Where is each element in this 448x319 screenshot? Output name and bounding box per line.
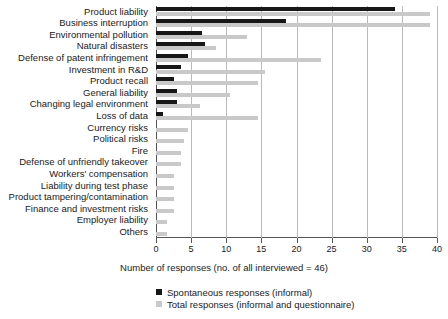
bar-total	[156, 23, 430, 27]
bar-spontaneous	[156, 77, 174, 81]
bar-total	[156, 93, 230, 97]
bar-spontaneous	[156, 65, 181, 69]
category-label: Product tampering/contamination	[9, 192, 148, 202]
bar-spontaneous	[156, 42, 205, 46]
gridline	[191, 6, 192, 238]
x-tick-label: 25	[327, 244, 337, 254]
bar-spontaneous	[156, 54, 188, 58]
legend-swatch	[156, 289, 162, 295]
category-label: Product recall	[90, 76, 148, 86]
legend-label: Spontaneous responses (informal)	[167, 287, 312, 298]
bar-chart: Product liabilityBusiness interruptionEn…	[0, 0, 448, 319]
bar-spontaneous	[156, 31, 202, 35]
bar-spontaneous	[156, 112, 163, 116]
bar-total	[156, 46, 216, 50]
gridline	[261, 6, 262, 238]
category-label: Business interruption	[59, 18, 148, 28]
chart-legend: Spontaneous responses (informal)Total re…	[156, 286, 354, 310]
category-label: Defense of patent infringement	[18, 53, 148, 63]
gridline	[402, 6, 403, 238]
plot-area	[156, 6, 437, 238]
bar-total	[156, 58, 321, 62]
bar-spontaneous	[156, 19, 286, 23]
bar-spontaneous	[156, 89, 177, 93]
bar-total	[156, 209, 174, 213]
x-tick-label: 15	[256, 244, 266, 254]
x-tick	[402, 238, 403, 243]
y-axis-line	[156, 6, 157, 238]
bar-total	[156, 116, 258, 120]
gridline	[437, 6, 438, 238]
category-label: Product liability	[84, 7, 148, 17]
category-axis-labels: Product liabilityBusiness interruptionEn…	[0, 6, 152, 238]
category-label: Workers' compensation	[49, 169, 148, 179]
category-label: Liability during test phase	[41, 181, 148, 191]
x-tick	[297, 238, 298, 243]
bar-total	[156, 151, 181, 155]
category-label: Environmental pollution	[49, 30, 148, 40]
bar-total	[156, 139, 184, 143]
gridline	[367, 6, 368, 238]
bar-total	[156, 197, 174, 201]
bar-total	[156, 220, 167, 224]
x-tick-label: 10	[221, 244, 231, 254]
x-tick	[367, 238, 368, 243]
category-label: Fire	[132, 146, 148, 156]
legend-item: Total responses (informal and questionna…	[156, 298, 354, 310]
x-tick	[437, 238, 438, 243]
bar-total	[156, 232, 167, 236]
category-label: Others	[119, 227, 148, 237]
bar-total	[156, 162, 181, 166]
category-label: Investment in R&D	[69, 65, 148, 75]
category-label: General liability	[83, 88, 148, 98]
bar-spontaneous	[156, 100, 177, 104]
x-axis-title: Number of responses (no. of all intervie…	[0, 262, 448, 273]
x-tick-label: 0	[153, 244, 158, 254]
category-label: Loss of data	[96, 111, 148, 121]
x-tick-label: 5	[189, 244, 194, 254]
category-label: Defense of unfriendly takeover	[19, 157, 148, 167]
bar-spontaneous	[156, 7, 395, 11]
bar-total	[156, 12, 430, 16]
legend-swatch	[156, 301, 162, 307]
bar-total	[156, 81, 258, 85]
x-axis-ticks: 0510152025303540	[156, 238, 437, 258]
bar-total	[156, 35, 247, 39]
category-label: Changing legal environment	[30, 99, 148, 109]
bar-total	[156, 128, 188, 132]
x-tick-label: 35	[397, 244, 407, 254]
gridline	[297, 6, 298, 238]
gridline	[332, 6, 333, 238]
x-tick	[191, 238, 192, 243]
x-tick	[332, 238, 333, 243]
category-label: Employer liability	[77, 215, 148, 225]
x-tick-label: 40	[432, 244, 442, 254]
bar-total	[156, 174, 174, 178]
x-tick	[261, 238, 262, 243]
category-label: Finance and investment risks	[25, 204, 148, 214]
x-tick-label: 30	[362, 244, 372, 254]
bar-total	[156, 104, 200, 108]
category-label: Natural disasters	[77, 41, 148, 51]
category-label: Political risks	[93, 134, 148, 144]
legend-label: Total responses (informal and questionna…	[167, 299, 354, 310]
gridline	[226, 6, 227, 238]
category-label: Currency risks	[87, 123, 148, 133]
bar-total	[156, 70, 265, 74]
x-tick	[156, 238, 157, 243]
legend-item: Spontaneous responses (informal)	[156, 286, 354, 298]
x-tick	[226, 238, 227, 243]
bar-total	[156, 186, 174, 190]
x-tick-label: 20	[291, 244, 301, 254]
